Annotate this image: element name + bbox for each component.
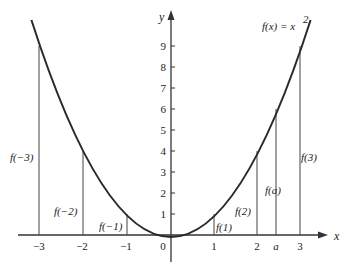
parabola-diagram: x y 1 2 3 4 5 6 7 8 9 −3 −2 −1 0 1 2 a 3 — [0, 0, 351, 269]
x-tick-minus-3: −3 — [33, 240, 45, 252]
y-tick-6: 6 — [161, 103, 167, 115]
x-tick-2: 2 — [254, 240, 260, 252]
y-tick-9: 9 — [161, 40, 167, 52]
x-tick-minus-2: −2 — [76, 240, 88, 252]
y-tick-8: 8 — [161, 61, 167, 73]
x-axis-label: x — [333, 229, 340, 243]
function-label-exponent: 2 — [303, 13, 309, 25]
x-tick-1: 1 — [211, 240, 217, 252]
y-tick-3: 3 — [161, 166, 167, 178]
label-f-minus-3: f(−3) — [10, 151, 34, 164]
x-tick-a: a — [273, 240, 279, 252]
y-tick-5: 5 — [161, 124, 167, 136]
function-label: f(x) = x 2 — [262, 13, 309, 33]
label-f-minus-1: f(−1) — [99, 220, 123, 233]
label-f-1: f(1) — [216, 221, 232, 234]
x-tick-minus-1: −1 — [120, 240, 132, 252]
y-tick-4: 4 — [161, 145, 167, 157]
y-tick-1: 1 — [161, 208, 167, 220]
axes: x y — [18, 10, 340, 262]
function-label-text: f(x) = x — [262, 20, 295, 33]
y-tick-labels: 1 2 3 4 5 6 7 8 9 — [161, 40, 167, 220]
label-f-2: f(2) — [235, 205, 251, 218]
x-tick-0: 0 — [160, 240, 166, 252]
y-axis-arrow-icon — [168, 10, 175, 20]
y-axis-label: y — [158, 10, 165, 24]
x-tick-labels: −3 −2 −1 0 1 2 a 3 — [33, 240, 303, 252]
x-axis-arrow-icon — [318, 232, 328, 239]
y-tick-2: 2 — [161, 187, 167, 199]
label-f-3: f(3) — [301, 151, 317, 164]
y-tick-7: 7 — [161, 82, 167, 94]
x-tick-3: 3 — [297, 240, 303, 252]
label-f-a: f(a) — [265, 184, 281, 197]
label-f-minus-2: f(−2) — [54, 205, 78, 218]
